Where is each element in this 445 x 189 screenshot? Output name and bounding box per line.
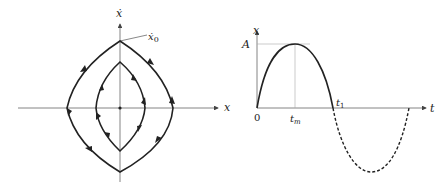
time-response: x t A 0 tm t1	[241, 24, 435, 172]
initial-point-label: ẋ0	[148, 31, 159, 44]
figure: x ẋ ẋ0 x t A	[0, 0, 445, 189]
origin-dot	[118, 106, 121, 109]
x-axis-label: x	[224, 101, 231, 114]
origin-label: 0	[254, 112, 260, 123]
peak-time-label: tm	[290, 113, 301, 126]
initial-point-leader	[120, 35, 147, 41]
arrow-icon	[80, 65, 87, 72]
flow-arrows-outer	[67, 58, 175, 152]
xdot-axis-label: ẋ	[116, 7, 123, 20]
t-label: t	[430, 102, 435, 115]
x-label: x	[253, 24, 260, 37]
phase-portrait: x ẋ ẋ0	[18, 7, 231, 182]
response-curve-dashed	[333, 108, 409, 172]
amplitude-label: A	[241, 38, 250, 51]
